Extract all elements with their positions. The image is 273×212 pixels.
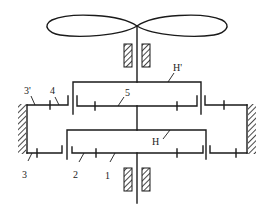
label-gear-3-prime: 3' — [24, 85, 31, 96]
label-gear-1: 1 — [105, 170, 110, 181]
gear-4-right — [205, 96, 247, 109]
label-carrier-h-prime: H' — [173, 62, 182, 73]
gear-4-left — [27, 96, 68, 109]
gear-train-diagram: H' 5 3' 4 H 3 2 1 — [0, 0, 273, 212]
label-gear-4: 4 — [50, 85, 55, 96]
frame-left — [18, 104, 27, 154]
gear-2-right — [210, 146, 247, 157]
label-gear-5: 5 — [125, 87, 130, 98]
gear-2-left — [27, 146, 62, 157]
label-carrier-h: H — [152, 136, 159, 147]
label-gear-2: 2 — [73, 169, 78, 180]
frame-right — [247, 104, 256, 154]
label-gear-3: 3 — [22, 169, 27, 180]
